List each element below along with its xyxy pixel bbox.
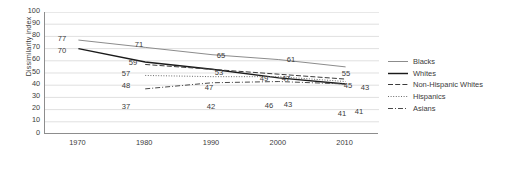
data-label: 65 — [217, 52, 225, 60]
data-label: 70 — [58, 47, 66, 55]
line-chart: Dissimilarity index 10090807060504030201… — [0, 0, 505, 175]
legend-swatch-icon — [388, 57, 408, 66]
legend-label: Whites — [413, 69, 436, 78]
y-tick-70: 70 — [32, 43, 40, 50]
y-tick-10: 10 — [32, 116, 40, 123]
plot-lines — [45, 12, 379, 134]
y-tick-40: 40 — [32, 80, 40, 87]
data-label: 41 — [338, 110, 346, 118]
data-label: 46 — [265, 102, 273, 110]
legend-swatch-icon — [388, 69, 408, 78]
data-label: 55 — [342, 70, 350, 78]
data-label: 43 — [361, 84, 369, 92]
y-tick-90: 90 — [32, 19, 40, 26]
legend-swatch-icon — [388, 92, 408, 101]
data-label: 48 — [122, 82, 130, 90]
legend-item-asians[interactable]: Asians — [388, 102, 503, 114]
series-line-blacks — [78, 40, 345, 67]
y-tick-50: 50 — [32, 68, 40, 75]
x-tick-2000: 2000 — [270, 138, 286, 147]
data-label: 77 — [58, 35, 66, 43]
chart-legend: BlacksWhitesNon-Hispanic WhitesHispanics… — [388, 56, 503, 114]
data-label: 57 — [122, 70, 130, 78]
data-label: 47 — [205, 84, 213, 92]
data-label: 41 — [355, 108, 363, 116]
data-label: 61 — [287, 56, 295, 64]
data-label: 53 — [215, 69, 223, 77]
data-label: 47 — [282, 75, 290, 83]
legend-item-hispanics[interactable]: Hispanics — [388, 91, 503, 103]
legend-label: Hispanics — [413, 92, 446, 101]
legend-item-whites[interactable]: Whites — [388, 68, 503, 80]
data-label: 71 — [135, 41, 143, 49]
data-label: 45 — [344, 82, 352, 90]
data-label: 42 — [207, 103, 215, 111]
legend-swatch-icon — [388, 104, 408, 113]
y-axis-tick-labels: 1009080706050403020100 — [18, 10, 40, 136]
y-tick-100: 100 — [28, 7, 40, 14]
x-tick-1980: 1980 — [136, 138, 152, 147]
x-tick-1990: 1990 — [203, 138, 219, 147]
x-tick-1970: 1970 — [69, 138, 85, 147]
series-line-whites — [78, 49, 345, 84]
y-tick-0: 0 — [36, 129, 40, 136]
y-tick-30: 30 — [32, 92, 40, 99]
data-label: 43 — [284, 101, 292, 109]
y-tick-60: 60 — [32, 55, 40, 62]
legend-swatch-icon — [388, 80, 408, 89]
x-axis-tick-labels: 19701980199020002010 — [44, 138, 378, 158]
legend-item-non-hispanic-whites[interactable]: Non-Hispanic Whites — [388, 79, 503, 91]
legend-label: Asians — [413, 104, 436, 113]
legend-label: Blacks — [413, 57, 435, 66]
x-tick-2010: 2010 — [336, 138, 352, 147]
y-tick-20: 20 — [32, 104, 40, 111]
plot-area — [44, 12, 378, 134]
data-label: 37 — [122, 103, 130, 111]
series-line-non-hispanic-whites — [145, 64, 345, 79]
legend-label: Non-Hispanic Whites — [413, 80, 483, 89]
data-label: 49 — [260, 75, 268, 83]
data-label: 59 — [129, 59, 137, 67]
legend-item-blacks[interactable]: Blacks — [388, 56, 503, 68]
y-tick-80: 80 — [32, 31, 40, 38]
